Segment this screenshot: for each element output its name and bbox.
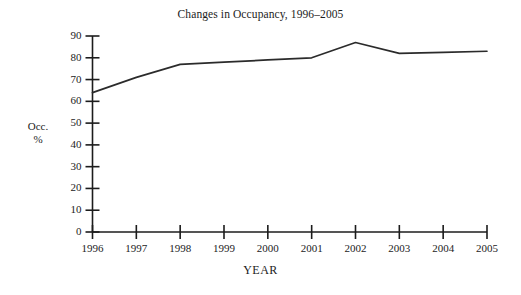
axes-group xyxy=(86,36,488,239)
data-series-group xyxy=(93,43,488,93)
data-line xyxy=(93,43,488,93)
plot-area xyxy=(0,0,521,295)
chart-figure: Changes in Occupancy, 1996–2005 Occ. % 0… xyxy=(0,0,521,295)
x-axis-title: YEAR xyxy=(0,263,521,278)
